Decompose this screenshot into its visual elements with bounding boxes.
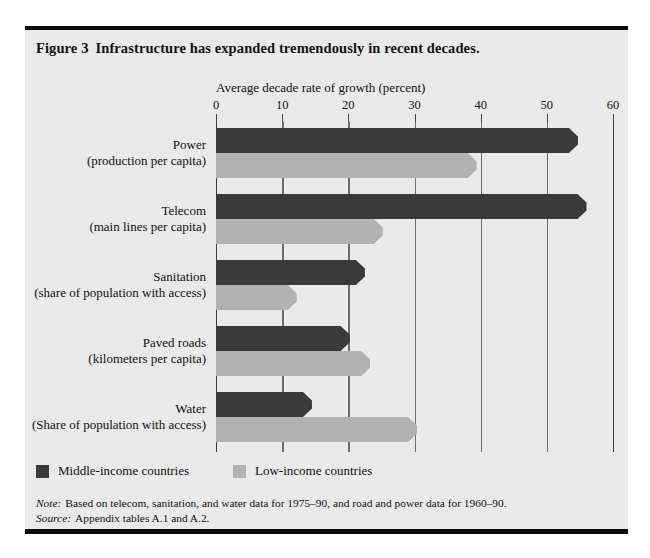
bar-group: [216, 392, 613, 442]
bar: [216, 417, 417, 442]
category-label-line2: (main lines per capita): [89, 219, 206, 235]
bar: [216, 285, 297, 310]
note-label: Note:: [36, 497, 61, 509]
x-tick-label: 30: [408, 98, 421, 113]
bar-fill: [216, 128, 578, 153]
x-axis-tick-marks: [0, 114, 650, 122]
note-text: Based on telecom, sanitation, and water …: [65, 497, 506, 509]
bar-group: [216, 194, 613, 244]
figure-number: Figure 3: [36, 40, 89, 56]
bar-fill: [216, 285, 297, 310]
bar-fill: [216, 392, 312, 417]
category-label: Sanitation(share of population with acce…: [34, 269, 206, 301]
figure-title: Figure 3Infrastructure has expanded trem…: [36, 40, 480, 57]
bar: [216, 326, 350, 351]
x-tick-mark: [282, 114, 283, 122]
x-tick-mark: [613, 114, 614, 122]
bar-fill: [216, 219, 383, 244]
bar: [216, 194, 587, 219]
bar: [216, 128, 578, 153]
legend-swatch-icon: [36, 465, 49, 478]
category-label-line1: Sanitation: [34, 269, 206, 285]
x-tick-label: 0: [213, 98, 219, 113]
bar-group: [216, 260, 613, 310]
bar-fill: [216, 417, 417, 442]
category-label-line1: Water: [32, 401, 206, 417]
figure-notes: Note:Based on telecom, sanitation, and w…: [36, 496, 616, 526]
category-label: Water(Share of population with access): [32, 401, 206, 433]
x-tick-mark: [481, 114, 482, 122]
bar: [216, 260, 365, 285]
category-label-line2: (Share of population with access): [32, 417, 206, 433]
category-label-line1: Paved roads: [88, 335, 206, 351]
x-tick-mark: [348, 114, 349, 122]
x-tick-label: 60: [607, 98, 620, 113]
bar: [216, 219, 383, 244]
bottom-rule: [25, 529, 628, 534]
legend-swatch-icon: [233, 465, 246, 478]
bar-fill: [216, 153, 477, 178]
category-label-line2: (share of population with access): [34, 285, 206, 301]
x-tick-label: 40: [474, 98, 487, 113]
x-tick-mark: [415, 114, 416, 122]
bar: [216, 392, 312, 417]
bar-group: [216, 128, 613, 178]
x-tick-mark: [216, 114, 217, 122]
x-tick-label: 20: [342, 98, 355, 113]
bar-fill: [216, 194, 587, 219]
category-label: Telecom(main lines per capita): [89, 203, 206, 235]
bar-fill: [216, 260, 365, 285]
category-label-line2: (kilometers per capita): [88, 351, 206, 367]
source-text: Appendix tables A.1 and A.2.: [75, 512, 209, 524]
gridline: [613, 122, 614, 452]
bar-fill: [216, 326, 350, 351]
category-label: Power(production per capita): [87, 137, 206, 169]
legend-item[interactable]: Middle-income countries: [36, 463, 189, 479]
bar: [216, 351, 370, 376]
x-tick-mark: [547, 114, 548, 122]
x-axis-title: Average decade rate of growth (percent): [216, 80, 425, 96]
legend-label: Middle-income countries: [58, 463, 189, 479]
source-label: Source:: [36, 512, 71, 524]
x-axis-tick-labels: 0102030405060: [0, 98, 650, 114]
x-tick-label: 50: [541, 98, 554, 113]
top-rule: [25, 26, 628, 30]
note-line: Note:Based on telecom, sanitation, and w…: [36, 496, 616, 511]
x-tick-label: 10: [276, 98, 289, 113]
source-line: Source:Appendix tables A.1 and A.2.: [36, 511, 616, 526]
figure-container: Figure 3Infrastructure has expanded trem…: [0, 0, 650, 558]
bar-fill: [216, 351, 370, 376]
category-label-line2: (production per capita): [87, 153, 206, 169]
legend-item[interactable]: Low-income countries: [233, 463, 372, 479]
category-label-line1: Power: [87, 137, 206, 153]
category-label-line1: Telecom: [89, 203, 206, 219]
plot-area: [216, 122, 613, 452]
legend-label: Low-income countries: [255, 463, 372, 479]
bar: [216, 153, 477, 178]
category-label: Paved roads(kilometers per capita): [88, 335, 206, 367]
figure-title-text: Infrastructure has expanded tremendously…: [96, 40, 480, 56]
bar-group: [216, 326, 613, 376]
